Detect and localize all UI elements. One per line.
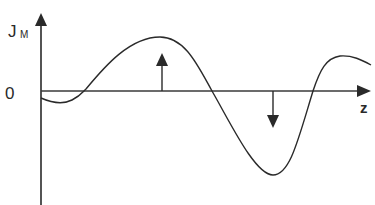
y-axis-subscript: M <box>20 29 28 40</box>
y-axis-label: J <box>8 22 17 41</box>
x-axis-label: z <box>360 99 368 116</box>
y-axis-arrowhead-icon <box>35 13 47 26</box>
jm-vs-z-diagram: J M 0 z <box>0 0 375 205</box>
up-arrow-icon <box>156 53 168 91</box>
x-axis-arrowhead-icon <box>357 85 371 97</box>
origin-label: 0 <box>5 84 14 103</box>
jm-curve <box>41 37 371 175</box>
x-axis <box>41 85 371 97</box>
y-axis <box>35 13 47 205</box>
down-arrow-icon <box>267 91 279 128</box>
